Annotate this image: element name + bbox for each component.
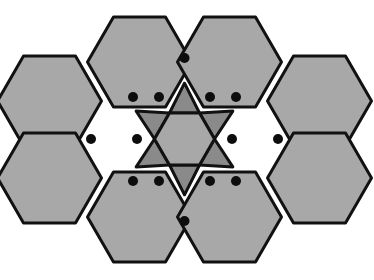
vertex-mid-far-right (273, 134, 283, 144)
vertex-upper-outer-right (231, 92, 241, 102)
vertex-bottom (180, 216, 190, 226)
vertex-lower-outer-right (231, 176, 241, 186)
inner-hexagon-layer (155, 113, 215, 165)
hexagon-center (155, 113, 215, 165)
figure-container (0, 0, 374, 280)
vertex-lower-outer-left (128, 176, 138, 186)
vertex-mid-far-left (86, 134, 96, 144)
vertex-upper-outer-left (128, 92, 138, 102)
vertex-mid-inner-right (227, 134, 237, 144)
vertex-upper-inner-left (154, 92, 164, 102)
vertex-lower-inner-left (154, 176, 164, 186)
vertex-upper-inner-right (205, 92, 215, 102)
vertex-mid-inner-left (132, 134, 142, 144)
vertex-lower-inner-right (205, 176, 215, 186)
hexagon-tiling-diagram (0, 0, 374, 280)
vertex-top (180, 53, 190, 63)
